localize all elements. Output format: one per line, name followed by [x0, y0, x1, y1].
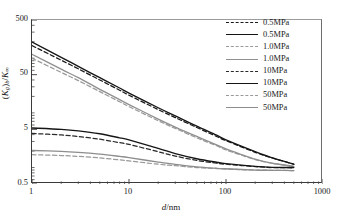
x-tick-label: 100 [211, 188, 239, 196]
chart-legend: 0.5MPa0.5MPa1.0MPa1.0MPa10MPa10MPa50MPa5… [226, 17, 322, 114]
legend-item[interactable]: 50MPa [226, 90, 322, 102]
legend-line-swatch [226, 55, 258, 63]
y-title-k: K [0, 90, 10, 96]
y-title-slash: / [0, 78, 10, 81]
y-title-close: ) [0, 84, 10, 87]
legend-item[interactable]: 10MPa [226, 65, 322, 77]
chart-figure: 0.5550500 1101001000 (Kg)b/K∞ d/nm 0.5MP… [0, 0, 342, 220]
x-axis-tick-labels: 1101001000 [0, 188, 342, 202]
y-title-open: ( [0, 96, 10, 99]
legend-line-swatch [226, 80, 258, 88]
legend-label: 0.5MPa [258, 19, 289, 27]
legend-label: 10MPa [258, 67, 287, 75]
legend-line-swatch [226, 19, 258, 27]
legend-item[interactable]: 10MPa [226, 77, 322, 89]
y-tick-label: 5 [24, 124, 28, 132]
x-title-unit: /nm [166, 202, 180, 212]
y-title-b: b [3, 81, 10, 84]
curve-10MPa-solid [32, 128, 294, 168]
legend-label: 10MPa [258, 79, 287, 87]
legend-item[interactable]: 0.5MPa [226, 29, 322, 41]
y-title-k2: K [0, 72, 10, 78]
legend-label: 1.0MPa [258, 43, 289, 51]
y-axis-title: (Kg)b/K∞ [1, 51, 11, 115]
legend-line-swatch [226, 67, 258, 75]
legend-label: 1.0MPa [258, 55, 289, 63]
legend-item[interactable]: 0.5MPa [226, 17, 322, 29]
x-tick-label: 1 [17, 188, 45, 196]
legend-line-swatch [226, 92, 258, 100]
legend-item[interactable]: 1.0MPa [226, 41, 322, 53]
legend-line-swatch [226, 31, 258, 39]
y-tick-label: 50 [20, 69, 28, 77]
legend-line-swatch [226, 43, 258, 51]
legend-label: 0.5MPa [258, 31, 289, 39]
y-tick-label: 0.5 [18, 179, 28, 187]
y-title-g: g [3, 87, 10, 90]
legend-item[interactable]: 1.0MPa [226, 53, 322, 65]
x-axis-title: d/nm [0, 203, 342, 212]
legend-label: 50MPa [258, 104, 287, 112]
y-title-infinity: ∞ [3, 67, 10, 72]
legend-line-swatch [226, 104, 258, 112]
y-tick-label: 500 [15, 15, 28, 23]
legend-item[interactable]: 50MPa [226, 102, 322, 114]
x-tick-label: 1000 [308, 188, 336, 196]
legend-label: 50MPa [258, 91, 287, 99]
x-tick-label: 10 [114, 188, 142, 196]
